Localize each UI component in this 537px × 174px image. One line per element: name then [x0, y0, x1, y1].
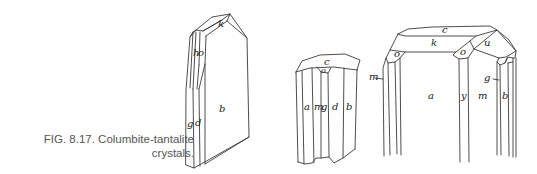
- crystal-2-label-b: b: [346, 101, 352, 112]
- crystal-1: k h o g d b: [186, 14, 249, 168]
- crystal-3-label-m-left: m: [369, 71, 378, 82]
- crystal-1-ho-faces: [190, 30, 206, 89]
- crystal-1-label-g: g: [187, 118, 193, 129]
- crystal-3-label-g: g: [484, 72, 490, 83]
- crystal-1-label-k: k: [218, 18, 224, 29]
- crystal-3-label-b: b: [502, 90, 508, 101]
- crystal-2-label-g: g: [321, 101, 327, 112]
- crystal-1-bottom: [205, 137, 249, 164]
- crystal-3-left-prism: [383, 58, 390, 156]
- crystal-3-leader-g: [493, 79, 499, 80]
- crystal-3-label-u: u: [484, 37, 490, 48]
- crystal-3-label-o-left: o: [394, 48, 400, 59]
- crystal-3-label-m-right: m: [478, 90, 487, 101]
- crystal-3-label-o-mid: o: [460, 46, 466, 57]
- crystal-1-label-o: o: [198, 47, 204, 58]
- crystal-2-prism-edges: [296, 68, 357, 164]
- caption-line-2: crystals.: [8, 146, 194, 160]
- figure-caption: FIG. 8.17. Columbite-tantalite crystals.: [8, 132, 194, 160]
- crystal-2-o-face-top: [317, 67, 331, 158]
- crystal-3: c k o o u m g a y m b: [369, 24, 516, 162]
- crystal-1-prism-edges: [193, 64, 205, 168]
- crystal-2-top-front: [296, 67, 357, 72]
- crystal-2-label-d: d: [332, 101, 338, 112]
- crystal-2: c o a m g d b: [296, 54, 360, 164]
- crystal-2-label-o: o: [321, 66, 326, 75]
- crystal-1-label-b: b: [219, 103, 225, 114]
- crystal-3-label-y: y: [460, 90, 467, 101]
- crystal-2-label-a: a: [304, 101, 310, 112]
- crystal-3-label-a: a: [428, 90, 434, 101]
- crystal-3-mid-o: [453, 41, 474, 162]
- crystal-1-label-d: d: [195, 117, 201, 128]
- caption-line-1: FIG. 8.17. Columbite-tantalite: [8, 132, 194, 146]
- crystal-3-label-c: c: [442, 24, 448, 35]
- crystal-3-label-k: k: [431, 37, 437, 48]
- crystal-2-bottom: [298, 149, 355, 164]
